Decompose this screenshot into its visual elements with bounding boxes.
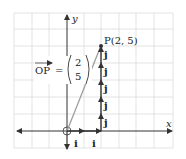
j-label-4: j: [103, 66, 108, 77]
equals-sign: =: [55, 65, 63, 76]
j-label-1: j: [103, 117, 108, 128]
j-label-5: j: [103, 49, 108, 60]
y-axis-label: y: [71, 13, 78, 24]
j-label-2: j: [103, 100, 108, 111]
component-y: 5: [75, 71, 81, 82]
vector-name: OP: [35, 65, 50, 76]
vector-diagram: x y P(2, 5) i i j j j j j OP = 2 5: [0, 0, 186, 159]
point-p-label: P(2, 5): [104, 35, 138, 46]
j-label-3: j: [103, 83, 108, 94]
i-label-2: i: [92, 138, 96, 149]
vector-equation: OP = 2 5: [34, 55, 92, 84]
x-axis-label: x: [166, 118, 172, 129]
component-x: 2: [75, 57, 81, 68]
i-label-1: i: [74, 138, 78, 149]
